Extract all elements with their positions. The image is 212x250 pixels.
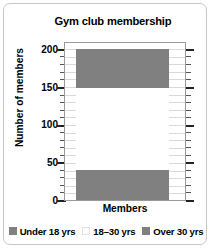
legend-label: Over 30 yrs xyxy=(153,226,203,237)
y-tick-label-150: 150 xyxy=(32,82,58,93)
y-major-tick-right-200 xyxy=(186,49,194,51)
y-minor-tick-right xyxy=(186,72,191,73)
legend-label: Under 18 yrs xyxy=(20,226,76,237)
legend-swatch-icon xyxy=(9,227,17,235)
y-tick-label-200: 200 xyxy=(32,44,58,55)
chart-card: Gym club membership Number of members 20… xyxy=(3,3,207,245)
y-major-tick-right-150 xyxy=(186,87,194,89)
y-minor-tick-right xyxy=(186,64,191,65)
plot-area xyxy=(64,42,186,201)
chart-title: Gym club membership xyxy=(38,15,188,27)
legend-label: 18–30 yrs xyxy=(93,226,135,237)
y-major-tick-right-0 xyxy=(186,200,194,202)
bar-segment-over-30[interactable] xyxy=(76,49,169,88)
y-minor-tick-right xyxy=(186,56,191,57)
y-minor-tick-right xyxy=(186,147,191,148)
y-tick-label-0: 0 xyxy=(32,195,58,206)
y-axis-title: Number of members xyxy=(14,38,25,158)
y-minor-tick-right xyxy=(186,132,191,133)
legend-item-18-30[interactable]: 18–30 yrs xyxy=(82,226,135,237)
y-minor-tick-right xyxy=(186,117,191,118)
stacked-bar-members[interactable] xyxy=(76,43,169,200)
legend-item-under-18[interactable]: Under 18 yrs xyxy=(9,226,76,237)
y-minor-tick-right xyxy=(186,110,191,111)
y-tick-label-100: 100 xyxy=(32,119,58,130)
x-axis-category-label: Members xyxy=(64,203,186,214)
y-minor-tick-right xyxy=(186,177,191,178)
y-minor-tick-right xyxy=(186,185,191,186)
y-minor-tick-right xyxy=(186,79,191,80)
y-major-tick-right-100 xyxy=(186,125,194,127)
y-major-tick-right-50 xyxy=(186,162,194,164)
chart-legend: Under 18 yrs 18–30 yrs Over 30 yrs xyxy=(12,223,200,239)
y-minor-tick-right xyxy=(186,170,191,171)
y-minor-tick-right xyxy=(186,95,191,96)
legend-swatch-icon xyxy=(82,227,90,235)
bar-segment-under-18[interactable] xyxy=(76,170,169,200)
y-tick-label-50: 50 xyxy=(32,157,58,168)
bar-segment-18-30[interactable] xyxy=(76,88,169,170)
legend-item-over-30[interactable]: Over 30 yrs xyxy=(142,226,203,237)
y-minor-tick-right xyxy=(186,192,191,193)
legend-swatch-icon xyxy=(142,227,150,235)
y-minor-tick-right xyxy=(186,140,191,141)
y-minor-tick-right xyxy=(186,102,191,103)
y-minor-tick-right xyxy=(186,155,191,156)
